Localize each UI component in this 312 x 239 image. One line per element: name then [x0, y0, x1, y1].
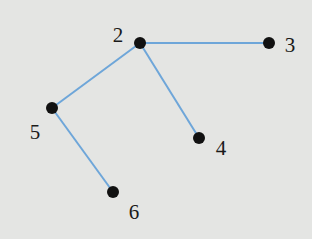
node-label-5: 5: [30, 122, 41, 143]
edge-5-6: [52, 108, 113, 192]
node-4: [193, 132, 205, 144]
nodes-group: [46, 37, 275, 198]
node-label-6: 6: [129, 202, 140, 223]
node-3: [263, 37, 275, 49]
edge-2-5: [52, 43, 140, 108]
node-label-4: 4: [216, 138, 227, 159]
node-2: [134, 37, 146, 49]
edge-2-4: [140, 43, 199, 138]
edges-group: [52, 43, 269, 192]
node-5: [46, 102, 58, 114]
graph-svg: [0, 0, 312, 239]
node-label-3: 3: [285, 35, 296, 56]
node-label-2: 2: [113, 25, 124, 46]
node-6: [107, 186, 119, 198]
graph-canvas: 2 3 5 4 6: [0, 0, 312, 239]
